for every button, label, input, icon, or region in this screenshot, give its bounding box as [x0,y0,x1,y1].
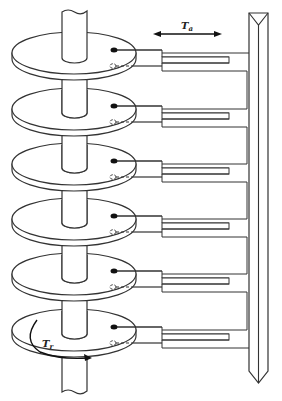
comb-arm-lower [162,284,247,292]
arrowhead-left-icon [153,31,161,37]
comb-tine-middle [162,223,229,229]
comb-arm-upper [162,106,247,109]
comb-arm-upper [162,216,247,219]
read-write-head-top-icon [111,325,118,330]
comb-arm-lower [162,174,247,182]
comb-arm-lower [162,63,247,71]
read-write-head-bottom-icon [110,341,116,346]
comb-arm-upper [162,327,247,330]
read-write-head-top-icon [111,269,118,274]
comb-tine-edge [162,274,229,278]
comb-arm-upper [162,161,247,164]
read-write-head-bottom-icon [110,64,116,69]
spindle-bottom [62,357,87,394]
comb-arm-lower [162,229,247,237]
label-actuator-motion: Ta [181,20,193,33]
comb-tine-middle [162,334,229,340]
read-write-head-top-icon [111,48,118,53]
read-write-head-top-icon [111,104,118,109]
comb-tine-edge [162,330,229,334]
comb-arm-upper [162,271,247,274]
comb-tine-edge [162,219,229,223]
read-write-head-bottom-icon [110,285,116,290]
hdd-diagram: Ta Tr [0,0,282,401]
read-write-head-bottom-icon [110,230,116,235]
read-write-head-bottom-icon [110,175,116,180]
spindle-segment [62,295,87,339]
spindle-top [62,10,87,63]
spindle-segment [62,74,87,118]
comb-tine-middle [162,57,229,63]
comb-tine-middle [162,113,229,119]
label-rotation: Tr [42,338,53,351]
comb-tine-edge [162,53,229,57]
comb-tine-middle [162,278,229,284]
comb-arm-upper [162,50,247,53]
comb-tine-middle [162,168,229,174]
comb-arm-lower [162,119,247,127]
comb-arm-lower [162,340,247,348]
label-sub-a: a [188,24,193,33]
label-sub-r: r [49,342,53,351]
comb-tine-edge [162,164,229,168]
arrowhead-right-icon [214,31,222,37]
comb-tine-edge [162,109,229,113]
read-write-head-bottom-icon [110,120,116,125]
read-write-head-top-icon [111,214,118,219]
read-write-head-top-icon [111,159,118,164]
